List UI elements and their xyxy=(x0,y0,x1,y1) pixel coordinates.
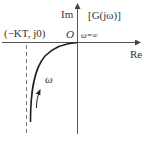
real-axis-label: Re xyxy=(130,48,142,60)
omega-infinity-label: ω=∞ xyxy=(81,31,98,40)
imag-axis-label: Im xyxy=(61,8,74,20)
nyquist-diagram: Im [G(jω)] (−KT, j0) O ω=∞ Re ω xyxy=(0,0,147,142)
omega-direction-arrow xyxy=(37,90,41,108)
omega-direction-label: ω xyxy=(45,73,53,85)
nyquist-curve xyxy=(31,43,78,123)
plane-label: [G(jω)] xyxy=(88,9,121,22)
origin-label: O xyxy=(66,28,74,40)
asymptote-point-label: (−KT, j0) xyxy=(4,27,46,40)
